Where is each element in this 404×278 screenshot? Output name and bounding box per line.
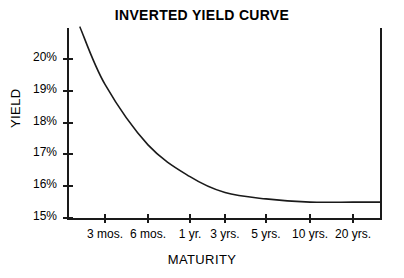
x-axis-tick-label: 20 yrs. [335, 227, 371, 241]
x-axis-tick-label: 5 yrs. [251, 227, 280, 241]
y-axis-tick-label: 16% [13, 177, 57, 191]
y-axis-tick-label: 15% [13, 209, 57, 223]
yield-curve-line [80, 27, 380, 202]
x-axis-title: MATURITY [0, 252, 404, 267]
x-axis-tick-label: 6 mos. [130, 227, 166, 241]
x-axis-tick-label: 3 mos. [87, 227, 123, 241]
y-axis-tick-label: 18% [13, 114, 57, 128]
x-axis-tick-label: 1 yr. [179, 227, 202, 241]
chart-title: INVERTED YIELD CURVE [0, 7, 404, 23]
chart-figure: INVERTED YIELD CURVE YIELD 20%19%18%17%1… [0, 0, 404, 278]
x-axis-tick-label: 3 yrs. [210, 227, 239, 241]
yield-curve-svg [67, 28, 382, 220]
y-axis-tick-label: 19% [13, 82, 57, 96]
y-axis-tick-label: 20% [13, 50, 57, 64]
plot-area: 20%19%18%17%16%15% 3 mos.6 mos.1 yr.3 yr… [67, 28, 382, 220]
y-axis-tick-label: 17% [13, 145, 57, 159]
x-axis-tick-label: 10 yrs. [292, 227, 328, 241]
